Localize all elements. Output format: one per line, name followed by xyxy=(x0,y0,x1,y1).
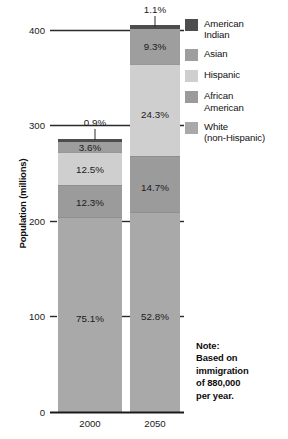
seg-label-2000-asian: 3.6% xyxy=(79,142,102,153)
legend-item-hispanic[interactable]: Hispanic xyxy=(185,69,288,82)
chart-legend: American Indian Asian Hispanic African A… xyxy=(185,18,288,151)
legend-item-african-american[interactable]: African American xyxy=(185,90,288,112)
bar-2000[interactable] xyxy=(58,139,122,412)
ytick-label-400: 400 xyxy=(29,25,45,36)
legend-item-white-non-hispanic[interactable]: White (non-Hispanic) xyxy=(185,121,288,143)
legend-swatch-white-non-hispanic xyxy=(185,122,198,134)
legend-label-african-american: African American xyxy=(204,90,244,112)
legend-item-american-indian[interactable]: American Indian xyxy=(185,18,288,40)
seg-label-2000-african-american: 12.3% xyxy=(76,197,104,208)
bar-2050[interactable] xyxy=(130,25,180,412)
seg-label-2050-white: 52.8% xyxy=(141,311,169,322)
legend-item-asian[interactable]: Asian xyxy=(185,48,288,61)
legend-swatch-african-american xyxy=(185,91,198,103)
ytick-label-0: 0 xyxy=(40,407,45,418)
ytick-label-200: 200 xyxy=(29,216,45,227)
population-projection-chart: 400 300 200 100 0 2000 2050 75.1% 12.3% … xyxy=(0,0,288,439)
legend-label-american-indian: American Indian xyxy=(204,18,244,40)
legend-swatch-asian xyxy=(185,49,198,61)
seg-label-2050-african-american: 14.7% xyxy=(141,182,169,193)
legend-label-asian: Asian xyxy=(204,48,228,59)
seg-label-2000-white: 75.1% xyxy=(76,313,104,324)
seg-label-2050-american-indian: 1.1% xyxy=(144,4,167,15)
legend-swatch-hispanic xyxy=(185,70,198,82)
seg-label-2000-american-indian: 0.9% xyxy=(84,117,107,128)
legend-label-white-non-hispanic: White (non-Hispanic) xyxy=(204,121,265,143)
xtick-label-2050: 2050 xyxy=(144,418,165,429)
seg-label-2000-hispanic: 12.5% xyxy=(76,164,104,175)
ytick-label-100: 100 xyxy=(29,311,45,322)
legend-label-hispanic: Hispanic xyxy=(204,69,240,80)
legend-swatch-american-indian xyxy=(185,19,198,31)
seg-label-2050-asian: 9.3% xyxy=(144,41,167,52)
chart-note: Note: Based on immigration of 880,000 pe… xyxy=(196,340,288,402)
xtick-label-2000: 2000 xyxy=(79,418,100,429)
y-axis-title: Population (millions) xyxy=(17,144,28,264)
ytick-label-300: 300 xyxy=(29,120,45,131)
seg-label-2050-hispanic: 24.3% xyxy=(141,109,169,120)
